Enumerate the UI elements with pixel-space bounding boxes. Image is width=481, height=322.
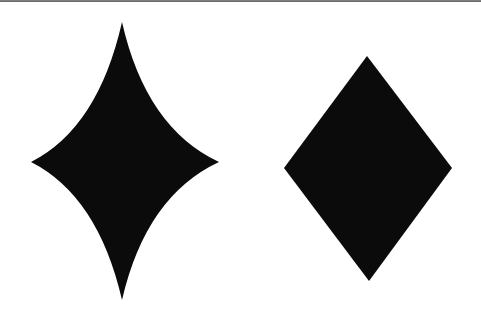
figure-canvas bbox=[0, 0, 481, 322]
rhombus-shape bbox=[284, 56, 452, 281]
concave-star-shape bbox=[31, 22, 219, 300]
